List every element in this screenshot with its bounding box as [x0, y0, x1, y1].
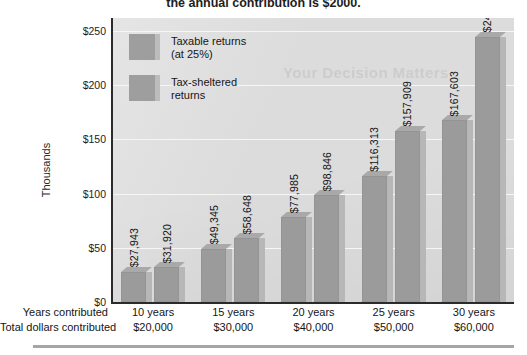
bar-value-label: $58,648 [241, 195, 253, 234]
y-axis-tick-label: $100 [60, 188, 106, 200]
x-axis-table-row: Years contributed10 years15 years20 year… [0, 306, 527, 321]
legend-swatch-icon [129, 34, 160, 60]
x-axis-category-table: Years contributed10 years15 years20 year… [0, 306, 527, 336]
legend-item-label: Taxable returns (at 25%) [171, 34, 246, 61]
bar-front-face [281, 217, 306, 302]
bar-side-face [146, 272, 152, 302]
bar-side-face [226, 249, 232, 302]
bar[interactable]: $157,909 [395, 131, 420, 302]
bar[interactable]: $58,648 [234, 238, 259, 302]
x-axis-category-cell: $20,000 [113, 321, 193, 333]
bar-chart-figure: Your Decision Matters $27,943$31,920$49,… [0, 14, 527, 306]
chart-legend: Taxable returns (at 25%) Tax-sheltered r… [129, 34, 319, 116]
x-axis-category-cell: 20 years [274, 306, 354, 318]
x-axis-category-cell: $30,000 [193, 321, 273, 333]
bar-side-face [420, 131, 426, 302]
bar-value-label: $167,603 [448, 71, 460, 116]
bar[interactable]: $116,313 [362, 176, 387, 302]
legend-label-line1: Tax-sheltered [171, 76, 237, 88]
x-axis-category-cell: $50,000 [354, 321, 434, 333]
y-axis-tick-label: $250 [60, 25, 106, 37]
bar[interactable]: $49,345 [201, 249, 226, 302]
legend-swatch-icon [129, 75, 160, 101]
figure-caption: the annual contribution is $2000. [0, 0, 527, 12]
bar-side-face [387, 176, 393, 302]
legend-item-label: Tax-sheltered returns [171, 75, 237, 102]
bar-value-label: $77,985 [288, 174, 300, 213]
bar[interactable]: $27,943 [121, 272, 146, 302]
x-axis-category-cell: 15 years [193, 306, 273, 318]
bar-value-label: $116,313 [368, 127, 380, 172]
x-axis-row-label: Total dollars contributed [0, 321, 108, 333]
legend-item-tax-sheltered: Tax-sheltered returns [129, 75, 319, 102]
bar-front-face [442, 120, 467, 302]
y-axis-tick-labels: $0$50$100$150$200$250 [58, 14, 106, 306]
bar-value-label: $244,691 [481, 18, 493, 33]
y-axis-title: Thousands [40, 110, 52, 230]
bar-front-face [201, 249, 226, 302]
x-axis-category-cell: 10 years [113, 306, 193, 318]
x-axis-category-cell: 25 years [354, 306, 434, 318]
bar[interactable]: $98,846 [314, 195, 339, 302]
bar-value-label: $98,846 [321, 152, 333, 191]
bottom-horizontal-rule [33, 345, 514, 348]
x-axis-category-cell: 30 years [434, 306, 514, 318]
x-axis-row-label: Years contributed [0, 306, 108, 318]
bar-value-label: $27,943 [128, 228, 140, 267]
bar-value-label: $157,909 [401, 81, 413, 126]
bar-side-face [339, 195, 345, 302]
bar-front-face [362, 176, 387, 302]
bar[interactable]: $167,603 [442, 120, 467, 302]
bar-front-face [121, 272, 146, 302]
y-axis-tick-label: $200 [60, 79, 106, 91]
y-axis-tick-label: $50 [60, 242, 106, 254]
x-axis-category-cell: $40,000 [274, 321, 354, 333]
bar[interactable]: $244,691 [475, 37, 500, 302]
bar-front-face [475, 37, 500, 302]
bar-front-face [234, 238, 259, 302]
bar[interactable]: $31,920 [154, 267, 179, 302]
bar-side-face [179, 267, 185, 302]
legend-label-line1: Taxable returns [171, 35, 246, 47]
bar-group: $167,603$244,691 [434, 18, 514, 302]
bar-value-label: $31,920 [161, 224, 173, 263]
legend-item-taxable: Taxable returns (at 25%) [129, 34, 319, 61]
bar-top-face [395, 126, 426, 131]
y-axis-line [111, 18, 113, 303]
bar-front-face [314, 195, 339, 302]
bar-group: $116,313$157,909 [354, 18, 434, 302]
bar[interactable]: $77,985 [281, 217, 306, 302]
x-axis-table-row: Total dollars contributed$20,000$30,000$… [0, 321, 527, 336]
bar-value-label: $49,345 [208, 205, 220, 244]
bar-side-face [467, 120, 473, 302]
legend-label-line2: returns [171, 89, 205, 101]
bar-front-face [154, 267, 179, 302]
bar-front-face [395, 131, 420, 302]
bar-side-face [500, 37, 506, 302]
bar-side-face [259, 238, 265, 302]
x-axis-line [111, 302, 514, 304]
bar-side-face [306, 217, 312, 302]
y-axis-tick-label: $150 [60, 133, 106, 145]
legend-label-line2: (at 25%) [171, 48, 213, 60]
x-axis-category-cell: $60,000 [434, 321, 514, 333]
